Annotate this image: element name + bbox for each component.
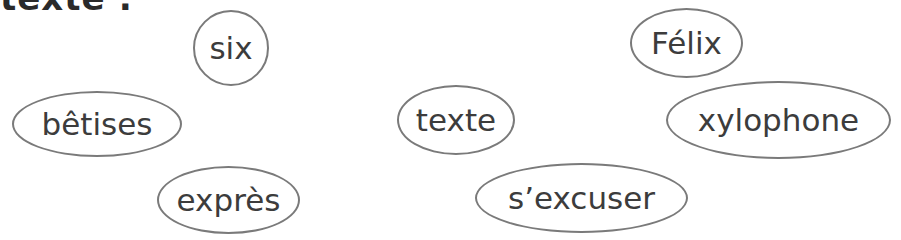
word-bubble-sexcuser[interactable]: s’excuser <box>475 163 688 233</box>
word-label: texte <box>416 102 496 138</box>
word-bubble-texte[interactable]: texte <box>397 85 515 155</box>
word-bubble-felix[interactable]: Félix <box>630 8 743 78</box>
word-label: bêtises <box>42 106 153 142</box>
word-bubble-six[interactable]: six <box>193 10 269 86</box>
word-label: exprès <box>177 182 281 218</box>
word-bubble-betises[interactable]: bêtises <box>12 91 182 157</box>
word-label: Félix <box>651 25 722 61</box>
word-label: xylophone <box>698 102 859 138</box>
word-bubble-expres[interactable]: exprès <box>157 166 300 234</box>
exercise-heading: texte : <box>0 0 133 18</box>
word-label: s’excuser <box>508 180 655 216</box>
word-label: six <box>209 30 252 66</box>
word-bubble-xylophone[interactable]: xylophone <box>666 81 891 159</box>
